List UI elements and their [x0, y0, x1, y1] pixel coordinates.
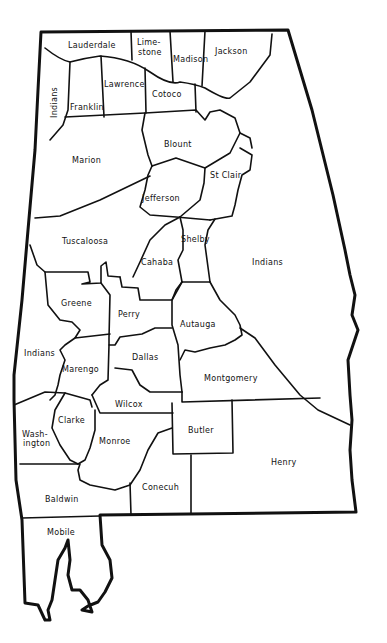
county-line	[30, 245, 120, 284]
county-label-cahaba: Cahaba	[141, 258, 173, 267]
county-line	[120, 277, 182, 300]
county-label-mobile: Mobile	[47, 528, 75, 537]
county-line	[195, 84, 196, 112]
county-line	[14, 392, 92, 407]
county-label-montgomery: Montgomery	[204, 374, 258, 383]
county-line	[35, 176, 150, 218]
county-label-monroe: Monroe	[99, 437, 131, 446]
county-label-blount: Blount	[164, 140, 192, 149]
county-label-tuscaloosa: Tuscaloosa	[61, 237, 108, 246]
county-line	[52, 393, 78, 464]
county-label-washington-2: ington	[23, 439, 50, 448]
county-label-marengo: Marengo	[62, 365, 99, 374]
county-label-henry: Henry	[271, 458, 297, 467]
county-label-perry: Perry	[118, 310, 140, 319]
county-line	[180, 168, 205, 217]
county-label-lawrence: Lawrence	[104, 80, 145, 89]
alabama-county-map: Lauderdale Lime- stone Madison Jackson I…	[0, 0, 387, 643]
county-label-dallas: Dallas	[132, 353, 158, 362]
county-label-greene: Greene	[61, 299, 92, 308]
county-line	[145, 68, 146, 113]
county-label-jefferson: Jefferson	[141, 194, 180, 203]
county-line	[152, 133, 240, 168]
county-label-autauga: Autauga	[180, 320, 216, 329]
county-label-conecuh: Conecuh	[142, 483, 179, 492]
county-line	[22, 516, 100, 518]
county-line	[131, 31, 132, 60]
county-line	[115, 368, 182, 392]
county-label-wilcox: Wilcox	[115, 400, 143, 409]
county-line	[210, 148, 252, 220]
county-label-cotoco: Cotoco	[152, 90, 182, 99]
county-line	[65, 110, 252, 148]
county-line	[205, 219, 215, 282]
county-label-marion: Marion	[72, 156, 101, 165]
county-label-washington-1: Wash-	[22, 430, 48, 439]
county-label-indians-north: Indians	[50, 87, 59, 118]
county-line	[142, 113, 152, 166]
county-line	[178, 217, 183, 282]
county-label-shelby: Shelby	[181, 235, 210, 244]
county-label-madison: Madison	[173, 55, 208, 64]
county-line	[172, 282, 182, 392]
county-label-clarke: Clarke	[58, 416, 85, 425]
county-label-franklin: Franklin	[70, 103, 104, 112]
county-label-limestone-1: Lime-	[137, 38, 161, 47]
county-line	[133, 217, 180, 277]
county-label-st-clair: St Clair	[210, 171, 242, 180]
county-label-indians-east: Indians	[252, 258, 283, 267]
county-label-butler: Butler	[188, 426, 214, 435]
county-label-jackson: Jackson	[214, 47, 248, 56]
county-line	[130, 483, 131, 515]
county-label-indians-west: Indians	[24, 349, 55, 358]
county-label-lauderdale: Lauderdale	[68, 41, 116, 50]
county-label-baldwin: Baldwin	[45, 495, 79, 504]
county-line	[140, 166, 210, 220]
county-label-limestone-2: stone	[138, 48, 162, 57]
